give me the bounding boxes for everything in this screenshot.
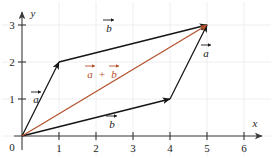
figure-canvas: 1 2 3 4 5 6 1 2 3 0 x y a b b a bbox=[0, 0, 273, 158]
x-axis-label: x bbox=[252, 117, 258, 129]
vector-label-b-bottom-text: b bbox=[109, 118, 115, 130]
vector-label-b-bottom: b bbox=[106, 114, 117, 130]
x-tick-label-6: 6 bbox=[241, 142, 247, 154]
y-axis-label: y bbox=[30, 7, 36, 19]
vector-addition-figure: 1 2 3 4 5 6 1 2 3 0 x y a b b a bbox=[0, 0, 273, 158]
x-tick-label-4: 4 bbox=[167, 142, 173, 154]
vector-label-b-top: b bbox=[103, 18, 114, 34]
vector-label-sum-plus: + bbox=[98, 68, 105, 80]
vector-label-sum-b: b bbox=[111, 68, 117, 80]
x-tick-label-2: 2 bbox=[93, 142, 99, 154]
vector-label-a-right-text: a bbox=[203, 47, 209, 59]
vector-label-a-left: a bbox=[31, 90, 41, 105]
vector-label-b-top-text: b bbox=[106, 22, 112, 34]
y-tick-label-1: 1 bbox=[9, 93, 15, 105]
vector-label-sum: a + b bbox=[85, 64, 119, 80]
vector-label-a-right: a bbox=[201, 43, 211, 59]
y-tick-label-3: 3 bbox=[9, 19, 15, 31]
x-tick-label-1: 1 bbox=[56, 142, 62, 154]
y-tick-label-2: 2 bbox=[9, 56, 15, 68]
x-tick-label-5: 5 bbox=[204, 142, 210, 154]
vector-label-a-left-text: a bbox=[33, 93, 39, 105]
vector-label-sum-a: a bbox=[87, 68, 93, 80]
x-tick-label-3: 3 bbox=[130, 142, 136, 154]
background-grid bbox=[2, 2, 271, 156]
origin-label: 0 bbox=[9, 141, 15, 153]
